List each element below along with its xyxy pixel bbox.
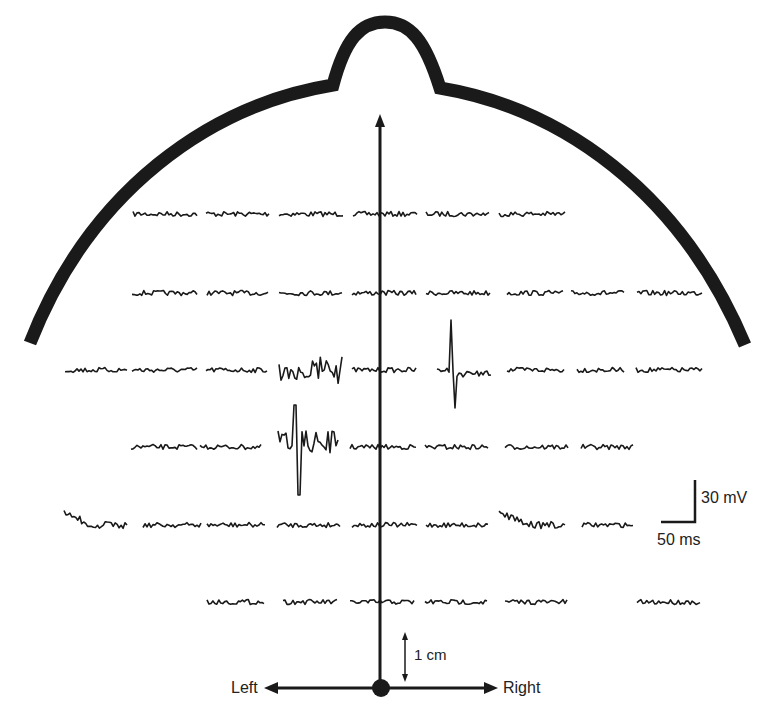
midline-arrowhead-icon	[375, 114, 385, 127]
electrode-trace	[499, 511, 565, 528]
electrode-trace	[426, 523, 488, 527]
electrode-trace	[577, 368, 624, 373]
electrode-trace	[350, 445, 416, 450]
electrode-trace	[350, 600, 414, 604]
electrode-trace	[353, 212, 417, 217]
electrode-trace	[277, 523, 340, 528]
electrode-trace	[636, 368, 702, 373]
scale-bar	[661, 480, 695, 522]
electrode-trace	[426, 291, 490, 296]
electrode-trace	[637, 291, 702, 296]
head-outline	[30, 22, 745, 345]
trace-grid	[64, 212, 702, 605]
electrode-trace	[505, 600, 567, 605]
electrode-map-diagram: Left Right 1 cm 30 mV 50 ms	[0, 0, 772, 722]
electrode-trace	[507, 291, 563, 296]
electrode-trace	[637, 600, 700, 605]
left-arrowhead-icon	[264, 682, 278, 694]
distance-bar-bottom-arrow-icon	[402, 674, 408, 682]
electrode-trace	[131, 445, 197, 450]
electrode-trace	[64, 511, 127, 529]
right-arrowhead-icon	[484, 682, 498, 694]
distance-label: 1 cm	[414, 646, 447, 663]
electrode-trace	[352, 291, 416, 296]
electrode-trace	[437, 320, 491, 408]
electrode-trace	[132, 291, 197, 296]
electrode-trace	[200, 445, 261, 450]
time-scale-label: 50 ms	[657, 531, 701, 549]
electrode-trace	[425, 600, 487, 605]
electrode-trace	[581, 445, 633, 450]
voltage-scale-label: 30 mV	[701, 489, 747, 507]
diagram-canvas	[0, 0, 772, 722]
electrode-trace	[499, 212, 565, 217]
electrode-trace	[352, 368, 416, 373]
electrode-trace	[207, 600, 264, 605]
left-label: Left	[231, 679, 258, 697]
electrode-trace	[65, 368, 127, 373]
electrode-trace	[279, 291, 342, 296]
electrode-trace	[206, 368, 267, 373]
electrode-trace	[582, 523, 633, 528]
electrode-trace	[278, 405, 338, 495]
electrode-trace	[279, 357, 342, 384]
right-label: Right	[503, 679, 540, 697]
electrode-trace	[507, 368, 564, 372]
electrode-trace	[426, 212, 489, 217]
electrode-trace	[283, 600, 337, 605]
electrode-trace	[132, 368, 197, 372]
electrode-trace	[505, 445, 568, 449]
origin-dot	[372, 679, 390, 697]
electrode-trace	[207, 523, 265, 528]
electrode-trace	[133, 212, 197, 217]
distance-bar-top-arrow-icon	[402, 632, 408, 640]
electrode-trace	[352, 523, 417, 528]
electrode-trace	[143, 523, 201, 528]
electrode-trace	[425, 445, 488, 450]
electrode-trace	[279, 212, 343, 217]
electrode-trace	[571, 291, 624, 296]
electrode-trace	[207, 291, 268, 296]
electrode-trace	[206, 212, 269, 216]
